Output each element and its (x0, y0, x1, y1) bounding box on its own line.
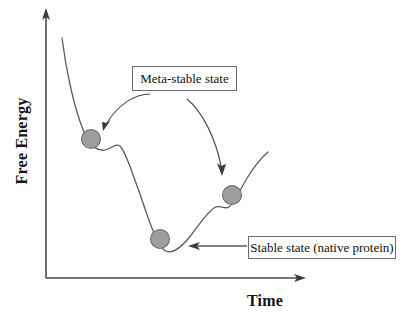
global-minimum-ball (151, 230, 170, 249)
meta-stable-well-ball (82, 130, 101, 149)
x-axis (46, 274, 306, 282)
right-well-ball (223, 186, 242, 205)
arrow-meta-stable-to-right-ball (187, 99, 226, 176)
free-energy-landscape-figure: Free Energy Time Meta-stable state Stabl… (0, 0, 403, 322)
arrow-stable-state-to-global-minimum (188, 242, 247, 250)
x-axis-label: Time (215, 292, 315, 310)
callout-stable-state: Stable state (native protein) (248, 236, 396, 259)
callout-meta-stable-state: Meta-stable state (132, 66, 237, 91)
figure-canvas (0, 0, 403, 322)
landscape-markers (82, 130, 242, 249)
y-axis (42, 8, 50, 278)
arrow-meta-stable-to-left-ball (102, 94, 150, 131)
y-axis-label: Free Energy (13, 83, 31, 199)
